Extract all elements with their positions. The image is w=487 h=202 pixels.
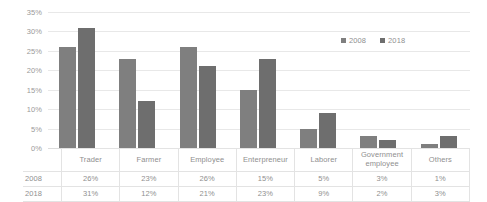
table-category-header: Employee	[178, 149, 236, 172]
y-axis-tick-label: 25%	[27, 46, 42, 55]
table-cell: 3%	[411, 187, 469, 202]
bar-2008-farmer[interactable]	[119, 59, 136, 148]
table-category-header: Enterpreneur	[236, 149, 294, 172]
bar-2018-enterpreneur[interactable]	[259, 59, 276, 148]
bar-2008-government-employee[interactable]	[360, 136, 377, 148]
bar-2018-employee[interactable]	[199, 66, 216, 148]
table-category-header: Trader	[62, 149, 120, 172]
bar-group	[229, 12, 289, 148]
bar-2018-trader[interactable]	[78, 28, 95, 148]
table-cell: 23%	[120, 172, 178, 187]
table-cell: 26%	[62, 172, 120, 187]
table-category-header: Government employee	[353, 149, 411, 172]
table-row-label: 2008	[23, 172, 62, 187]
table-row: 200826%23%26%15%5%3%1%	[23, 172, 470, 187]
plot-area: 35%30%25%20%15%10%5%0%	[0, 0, 487, 150]
bars-layer	[48, 12, 470, 148]
y-axis-tick-label: 15%	[27, 85, 42, 94]
bar-2008-enterpreneur[interactable]	[240, 90, 257, 148]
bar-group	[48, 12, 108, 148]
data-table-body: TraderFarmerEmployeeEnterpreneurLaborerG…	[23, 149, 470, 202]
table-cell: 5%	[295, 172, 353, 187]
table-header-row: TraderFarmerEmployeeEnterpreneurLaborerG…	[23, 149, 470, 172]
bar-group	[169, 12, 229, 148]
data-table: TraderFarmerEmployeeEnterpreneurLaborerG…	[23, 148, 470, 202]
legend-swatch-icon	[380, 38, 385, 43]
bar-2018-government-employee[interactable]	[379, 140, 396, 148]
y-axis-tick-label: 30%	[27, 27, 42, 36]
table-row: 201831%12%21%23%9%2%3%	[23, 187, 470, 202]
bar-2018-laborer[interactable]	[319, 113, 336, 148]
bar-2008-laborer[interactable]	[300, 129, 317, 148]
bar-2018-farmer[interactable]	[138, 101, 155, 148]
table-cell: 9%	[295, 187, 353, 202]
bar-group	[349, 12, 409, 148]
table-corner-cell	[23, 149, 62, 172]
table-cell: 31%	[62, 187, 120, 202]
legend-label: 2018	[388, 36, 405, 45]
legend-label: 2008	[349, 36, 366, 45]
table-cell: 12%	[120, 187, 178, 202]
legend-item-2018[interactable]: 2018	[380, 36, 405, 45]
y-axis-tick-label: 35%	[27, 8, 42, 17]
legend-item-2008[interactable]: 2008	[341, 36, 366, 45]
y-axis-tick-label: 10%	[27, 105, 42, 114]
bar-group	[108, 12, 168, 148]
bar-group	[289, 12, 349, 148]
bar-chart-with-data-table: 35%30%25%20%15%10%5%0% 20082018 TraderFa…	[0, 0, 487, 202]
table-category-header: Farmer	[120, 149, 178, 172]
table-cell: 21%	[178, 187, 236, 202]
y-axis: 35%30%25%20%15%10%5%0%	[0, 0, 48, 150]
table-cell: 3%	[353, 172, 411, 187]
bar-2008-trader[interactable]	[59, 47, 76, 148]
bar-2008-employee[interactable]	[180, 47, 197, 148]
bar-group	[410, 12, 470, 148]
y-axis-tick-label: 5%	[31, 124, 42, 133]
chart-legend: 20082018	[341, 36, 405, 45]
bar-2018-others[interactable]	[440, 136, 457, 148]
table-category-header: Others	[411, 149, 469, 172]
table-cell: 23%	[236, 187, 294, 202]
table-row-label: 2018	[23, 187, 62, 202]
y-axis-tick-label: 20%	[27, 66, 42, 75]
table-cell: 15%	[236, 172, 294, 187]
table-category-header: Laborer	[295, 149, 353, 172]
table-cell: 1%	[411, 172, 469, 187]
table-cell: 26%	[178, 172, 236, 187]
legend-swatch-icon	[341, 38, 346, 43]
table-cell: 2%	[353, 187, 411, 202]
